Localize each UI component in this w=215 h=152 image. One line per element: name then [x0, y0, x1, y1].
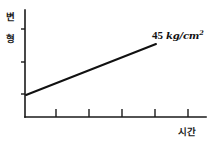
- series-annotation-unit-main: kg/cm: [166, 30, 199, 41]
- y-axis-label-char-1: 변: [3, 12, 17, 22]
- series-annotation-unit-exponent: 2: [199, 29, 203, 37]
- series-annotation-value: 45: [152, 29, 163, 41]
- figure-container: 변 형 시간 45 kg/cm2: [0, 0, 215, 152]
- series-annotation: 45 kg/cm2: [152, 30, 204, 41]
- series-annotation-unit: kg/cm2: [166, 30, 204, 41]
- y-axis-label-char-2: 형: [3, 34, 17, 44]
- data-series-line: [26, 44, 156, 95]
- x-axis-label: 시간: [178, 127, 196, 137]
- y-axis-label: 변 형: [3, 12, 17, 55]
